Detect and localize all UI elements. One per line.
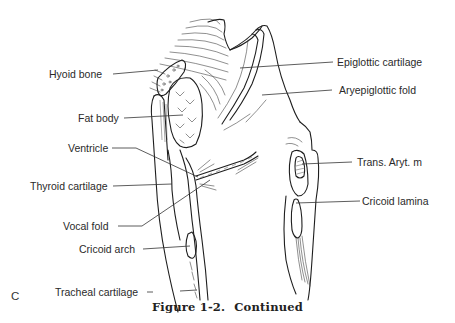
label-hyoid-bone: Hyoid bone [49,68,102,80]
label-fat-body: Fat body [78,112,119,124]
figure-caption: Figure 1-2.Continued [0,300,455,314]
label-tracheal-cartilage: Tracheal cartilage [55,286,138,298]
leader-lines [112,62,360,292]
label-cricoid-arch: Cricoid arch [79,243,135,255]
cricoid-arch-shape [186,232,197,298]
label-ventricle: Ventricle [68,142,108,154]
label-epiglottic-cartilage: Epiglottic cartilage [337,56,422,68]
epiglottis [218,26,300,125]
label-cricoid-lamina: Cricoid lamina [362,195,429,207]
cricoid-lamina-shape [284,196,310,294]
caption-number: Figure 1-2. [152,300,225,314]
label-trans-aryt-m: Trans. Aryt. m [357,156,422,168]
label-aryepiglottic-fold: Aryepiglottic fold [339,84,416,96]
label-thyroid-cartilage: Thyroid cartilage [30,180,108,192]
fat-body [168,78,202,148]
ventricle-vocal-fold [196,114,258,190]
airway-inner-wall [180,150,200,300]
arytenoid-region [286,138,308,197]
label-vocal-fold: Vocal fold [63,220,109,232]
caption-text: Continued [234,300,303,314]
